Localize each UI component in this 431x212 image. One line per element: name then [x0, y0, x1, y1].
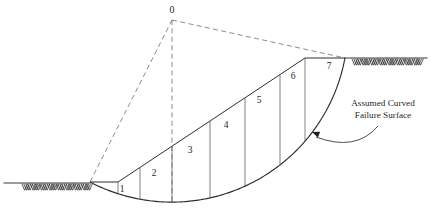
slice-label-6: 6 [291, 71, 296, 81]
annotation-leader-line [316, 126, 378, 142]
slice-label-5: 5 [257, 95, 262, 105]
slice-label-4: 4 [224, 120, 229, 130]
failure-surface-annotation: Assumed CurvedFailure Surface [312, 98, 415, 142]
slice-label-3: 3 [188, 145, 193, 155]
failure-surface-arc [90, 58, 345, 202]
slice-number-labels: 1234567 [120, 61, 332, 194]
left-radius [90, 20, 172, 182]
center-of-rotation-label: 0 [170, 4, 175, 15]
slope-face-profile [90, 58, 305, 182]
center-of-rotation-marker: 0 [170, 4, 175, 15]
slice-label-2: 2 [152, 168, 157, 178]
slice-label-1: 1 [120, 184, 125, 194]
slope-face-line [90, 58, 345, 182]
assumed-failure-surface [90, 58, 345, 202]
annotation-line-2: Failure Surface [355, 110, 411, 120]
annotation-arrowhead [312, 132, 320, 138]
diagram-canvas: 1234567 0 Assumed CurvedFailure Surface [0, 0, 431, 212]
annotation-line-1: Assumed Curved [351, 98, 415, 108]
right-radius [172, 20, 345, 58]
slope-stability-diagram: 1234567 0 Assumed CurvedFailure Surface [0, 0, 431, 212]
slice-dividers [118, 58, 305, 202]
slice-label-7: 7 [327, 61, 332, 71]
ground-surfaces [4, 58, 427, 183]
